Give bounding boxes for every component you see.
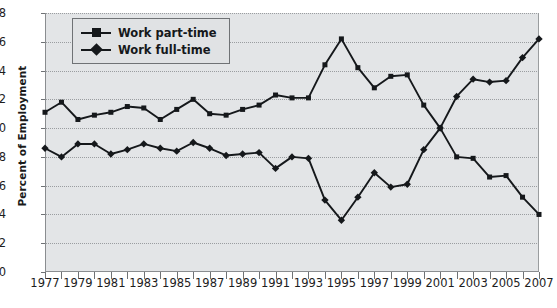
- x-axis-tick-label: 2001: [426, 276, 455, 290]
- gridline: [46, 128, 539, 129]
- y-axis-tick: [41, 71, 45, 72]
- y-axis-tick-label: 42: [0, 236, 6, 250]
- gridline: [46, 157, 539, 158]
- x-axis-tick-label: 1989: [228, 276, 257, 290]
- y-axis-tick-label: 54: [0, 64, 6, 78]
- x-axis-tick-label: 1983: [129, 276, 158, 290]
- plot-right-edge: [538, 13, 539, 271]
- y-axis-tick-label: 48: [0, 150, 6, 164]
- x-axis-tick-label: 1999: [393, 276, 422, 290]
- y-axis-tick: [41, 13, 45, 14]
- x-axis-tick-label: 1995: [327, 276, 356, 290]
- legend-entry: Work full-time: [81, 41, 217, 58]
- y-axis-tick-label: 40: [0, 265, 6, 279]
- y-axis-tick: [41, 42, 45, 43]
- y-axis-tick: [41, 214, 45, 215]
- y-axis-tick: [41, 128, 45, 129]
- x-axis-tick-label: 2007: [524, 276, 553, 290]
- chart-figure: Percent of Employment 404244464850525456…: [0, 0, 557, 308]
- square-marker-icon: [81, 26, 111, 40]
- x-axis-tick-label: 1979: [63, 276, 92, 290]
- x-axis-tick-label: 1993: [294, 276, 323, 290]
- gridline: [46, 99, 539, 100]
- legend-entry: Work part-time: [81, 24, 217, 41]
- gridline: [46, 71, 539, 72]
- y-axis-tick-label: 52: [0, 92, 6, 106]
- y-axis-title: Percent of Employment: [16, 56, 28, 216]
- gridline: [46, 186, 539, 187]
- x-axis-tick-label: 1997: [360, 276, 389, 290]
- x-axis-tick-label: 1987: [195, 276, 224, 290]
- y-axis-tick-label: 50: [0, 121, 6, 135]
- y-axis-tick: [41, 99, 45, 100]
- x-axis-tick-label: 1977: [30, 276, 59, 290]
- x-axis-tick-label: 2005: [491, 276, 520, 290]
- x-axis-tick-label: 2003: [458, 276, 487, 290]
- x-axis-tick-label: 1991: [261, 276, 290, 290]
- y-axis-tick: [41, 157, 45, 158]
- gridline: [46, 214, 539, 215]
- x-axis-tick-label: 1981: [96, 276, 125, 290]
- legend-label: Work full-time: [118, 43, 211, 57]
- legend-label: Work part-time: [118, 26, 217, 40]
- chart-legend: Work part-timeWork full-time: [72, 18, 230, 64]
- y-axis-tick-label: 58: [0, 6, 6, 20]
- gridline: [46, 243, 539, 244]
- gridline: [46, 13, 539, 14]
- y-axis-tick: [41, 186, 45, 187]
- y-axis-tick-label: 56: [0, 35, 6, 49]
- diamond-marker-icon: [81, 43, 111, 57]
- y-axis-tick: [41, 243, 45, 244]
- y-axis-tick-label: 46: [0, 179, 6, 193]
- x-axis-tick-label: 1985: [162, 276, 191, 290]
- y-axis-tick-label: 44: [0, 207, 6, 221]
